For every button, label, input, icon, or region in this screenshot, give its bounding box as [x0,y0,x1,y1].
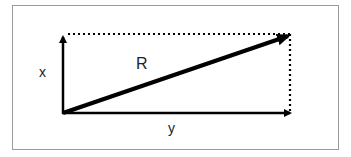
resultant-label: R [136,55,148,73]
resultant-vector-arrow [63,36,288,113]
x-label: x [39,64,46,80]
y-label: y [168,120,175,136]
vector-diagram [0,0,351,157]
